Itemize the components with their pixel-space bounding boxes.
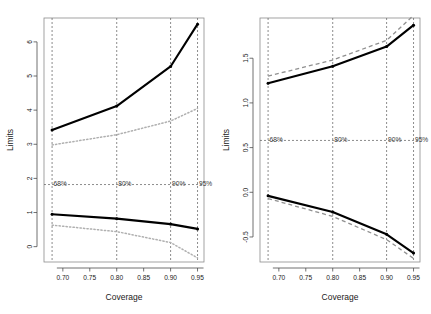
- y-axis-tick-label: 4: [27, 108, 34, 112]
- data-point: [196, 23, 199, 26]
- data-point: [169, 223, 172, 226]
- coverage-level-label: 90%: [388, 136, 401, 143]
- y-axis-tick-label: 1.0: [243, 98, 250, 107]
- data-point: [115, 217, 118, 220]
- x-axis-tick-label: 0.85: [353, 274, 366, 281]
- y-axis-tick-label: 3: [27, 142, 34, 146]
- x-axis-tick-label: 0.80: [326, 274, 339, 281]
- chart-panel-left: 68%80%90%95%0.700.750.800.850.900.950123…: [0, 0, 215, 314]
- data-point: [385, 233, 388, 236]
- data-point: [169, 65, 172, 68]
- data-point: [412, 252, 415, 255]
- x-axis-tick-label: 0.75: [83, 274, 96, 281]
- data-point: [115, 105, 118, 108]
- x-axis-tick-label: 0.75: [299, 274, 312, 281]
- coverage-level-label: 68%: [270, 136, 283, 143]
- data-point: [196, 227, 199, 230]
- series-upper-limit-solid: [268, 25, 413, 83]
- y-axis-title: Limits: [221, 129, 231, 151]
- coverage-level-label: 95%: [199, 180, 212, 187]
- y-axis-tick-label: 2: [27, 176, 34, 180]
- x-axis-title: Coverage: [322, 292, 359, 302]
- x-axis-tick-label: 0.85: [137, 274, 150, 281]
- series-upper-limit-solid: [52, 24, 197, 130]
- y-axis-tick-label: 0.5: [243, 143, 250, 152]
- coverage-level-label: 68%: [54, 180, 67, 187]
- y-axis-tick-label: 0.0: [243, 187, 250, 196]
- coverage-level-label: 95%: [415, 136, 428, 143]
- coverage-level-label: 90%: [172, 180, 185, 187]
- coverage-level-label: 80%: [118, 180, 131, 187]
- x-axis-tick-label: 0.70: [56, 274, 69, 281]
- data-point: [267, 82, 270, 85]
- data-point: [412, 24, 415, 27]
- figure-container: 68%80%90%95%0.700.750.800.850.900.950123…: [0, 0, 431, 314]
- y-axis-tick-label: 1.5: [243, 53, 250, 62]
- y-axis-tick-label: -0.5: [243, 231, 250, 243]
- plot-svg: 68%80%90%95%0.700.750.800.850.900.95-0.5…: [216, 0, 431, 314]
- y-axis-tick-label: 5: [27, 74, 34, 78]
- x-axis-tick-label: 0.80: [110, 274, 123, 281]
- series-lower-limit-dotted: [52, 225, 197, 258]
- data-point: [385, 45, 388, 48]
- chart-panel-right: 68%80%90%95%0.700.750.800.850.900.95-0.5…: [216, 0, 431, 314]
- y-axis-tick-label: 0: [27, 244, 34, 248]
- data-point: [331, 210, 334, 213]
- x-axis-tick-label: 0.90: [164, 274, 177, 281]
- y-axis-tick-label: 1: [27, 210, 34, 214]
- x-axis-tick-label: 0.95: [407, 274, 420, 281]
- x-axis-tick-label: 0.90: [380, 274, 393, 281]
- data-point: [267, 194, 270, 197]
- series-upper-limit-dashed: [268, 15, 413, 76]
- plot-svg: 68%80%90%95%0.700.750.800.850.900.950123…: [0, 0, 215, 314]
- series-lower-limit-dashed: [268, 199, 413, 259]
- series-upper-limit-dotted: [52, 108, 197, 145]
- y-axis-tick-label: 6: [27, 40, 34, 44]
- data-point: [331, 65, 334, 68]
- x-axis-tick-label: 0.95: [191, 274, 204, 281]
- x-axis-tick-label: 0.70: [272, 274, 285, 281]
- data-point: [51, 213, 54, 216]
- data-point: [51, 128, 54, 131]
- coverage-level-label: 80%: [334, 136, 347, 143]
- y-axis-title: Limits: [5, 129, 15, 151]
- x-axis-title: Coverage: [106, 292, 143, 302]
